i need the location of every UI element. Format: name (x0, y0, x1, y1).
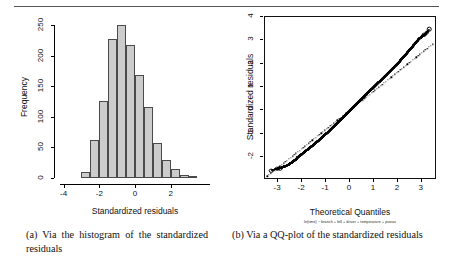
qqplot-reference-line-dot (374, 90, 375, 91)
qqplot-reference-line-dot (430, 45, 431, 46)
qqplot-reference-line-dot (383, 82, 384, 83)
histogram-bar (126, 45, 135, 178)
qqplot-x-axis-title: Theoretical Quantiles (264, 207, 436, 217)
qqplot-x-tick (301, 179, 302, 182)
qqplot-reference-line-dot (392, 75, 393, 76)
histogram-plot-area (60, 18, 210, 178)
qqplot-outlier-point (427, 27, 432, 32)
qqplot-reference-line-dot (418, 55, 419, 56)
qqplot-reference-line-dot (301, 148, 302, 149)
histogram-x-tick-label: -4 (52, 189, 76, 198)
qqplot-reference-line-dot (299, 150, 300, 151)
figure-row: 050100150200250-4-202 Standardized resid… (0, 10, 453, 225)
qqplot-reference-line-dot (387, 80, 388, 81)
histogram-bar (81, 172, 90, 178)
histogram-y-tick-label: 50 (36, 135, 45, 159)
qqplot-plot-area (264, 16, 436, 179)
qqplot-y-tick-label: 4 (246, 4, 255, 28)
qqplot-reference-line-dot (304, 146, 305, 147)
histogram-x-tick-label: 2 (159, 189, 183, 198)
qqplot-reference-line-dot (315, 137, 316, 138)
qqplot-reference-line-dot (391, 77, 392, 78)
qqplot-reference-line-dot (285, 161, 286, 162)
qqplot-reference-line-dot (294, 154, 295, 155)
qqplot-reference-line-dot (382, 84, 383, 85)
qqplot-x-tick-label: -3 (265, 183, 289, 192)
qqplot-reference-line-dot (407, 64, 408, 65)
qqplot-y-tick (260, 39, 263, 40)
histogram-y-tick-label: 0 (36, 166, 45, 190)
qqplot-reference-line-dot (290, 157, 291, 158)
qqplot-reference-line-dot (423, 51, 424, 52)
qqplot-y-tick (260, 133, 263, 134)
histogram-x-tick (171, 185, 172, 188)
qqplot-reference-line-dot (288, 158, 289, 159)
histogram-bar (135, 75, 144, 178)
histogram-bar (90, 140, 99, 178)
qqplot-y-tick (260, 16, 263, 17)
histogram-bar (99, 101, 108, 178)
caption-b: (b) Via a QQ-plot of the standardized re… (232, 228, 432, 242)
qqplot-reference-line-dot (371, 92, 372, 93)
qqplot-reference-line-dot (313, 138, 314, 139)
qqplot-reference-line-dot (414, 58, 415, 59)
histogram-bar (180, 175, 189, 178)
qqplot-reference-line-dot (419, 54, 420, 55)
histogram-x-tick-label: 0 (123, 189, 147, 198)
qqplot-reference-line-dot (366, 97, 367, 98)
qqplot-x-tick (397, 179, 398, 182)
qqplot-reference-line-dot (378, 87, 379, 88)
qqplot-reference-line-dot (324, 130, 325, 131)
histogram-y-tick (51, 56, 54, 57)
histogram-x-axis-title: Standardized residuals (60, 206, 210, 216)
qqplot-reference-line-dot (269, 174, 270, 175)
qqplot-reference-line-dot (416, 57, 417, 58)
qqplot-reference-line-dot (373, 91, 374, 92)
histogram-x-tick-label: -2 (87, 189, 111, 198)
caption-a: (a) Via the histogram of the standardize… (26, 228, 208, 256)
qqplot-y-tick (260, 109, 263, 110)
qqplot-x-tick (325, 179, 326, 182)
histogram-y-axis-title: Frequency (19, 57, 29, 137)
qqplot-reference-line-dot (362, 100, 363, 101)
qqplot-reference-line-dot (306, 144, 307, 145)
qqplot-reference-line-dot (396, 72, 397, 73)
qqplot-reference-line-dot (292, 156, 293, 157)
histogram-x-tick (99, 185, 100, 188)
qqplot-y-tick (260, 86, 263, 87)
qqplot-x-tick (277, 179, 278, 182)
histogram-y-tick-label: 150 (36, 74, 45, 98)
qqplot-reference-line-dot (303, 147, 304, 148)
qqplot-x-tick-label: 1 (361, 183, 385, 192)
qqplot-reference-line-dot (319, 134, 320, 135)
histogram-bar (171, 169, 180, 178)
qqplot-x-tick-label: 3 (409, 183, 433, 192)
qqplot-reference-line-dot (432, 44, 433, 45)
qqplot-reference-line-dot (308, 143, 309, 144)
qqplot-reference-line-dot (310, 141, 311, 142)
qqplot-reference-line-dot (295, 153, 296, 154)
qqplot-model-formula-subtitle: ln(time) ~ branch + bill + driver + temp… (254, 220, 446, 224)
qqplot-reference-line-dot (409, 62, 410, 63)
qqplot-reference-line-dot (270, 173, 271, 174)
qqplot-reference-line-dot (425, 49, 426, 50)
qqplot-y-tick (260, 156, 263, 157)
qqplot-x-tick (373, 179, 374, 182)
qqplot-reference-line-dot (400, 69, 401, 70)
qqplot-reference-line-dot (364, 98, 365, 99)
qqplot-reference-line-dot (401, 68, 402, 69)
qqplot-reference-line-dot (421, 52, 422, 53)
panel-qqplot: -2-101234-3-2-10123 Theoretical Quantile… (228, 10, 450, 222)
qqplot-y-tick (260, 63, 263, 64)
histogram-y-tick (51, 117, 54, 118)
qqplot-reference-line-dot (389, 78, 390, 79)
qqplot-reference-line-dot (283, 163, 284, 164)
qqplot-reference-line-dot (394, 74, 395, 75)
histogram-y-tick (51, 86, 54, 87)
qqplot-reference-line-dot (385, 81, 386, 82)
qqplot-x-tick-label: -2 (289, 183, 313, 192)
qqplot-reference-line-dot (267, 176, 268, 177)
histogram-y-tick-label: 200 (36, 43, 45, 67)
histogram-bar (108, 39, 117, 178)
histogram-bar (144, 107, 153, 178)
